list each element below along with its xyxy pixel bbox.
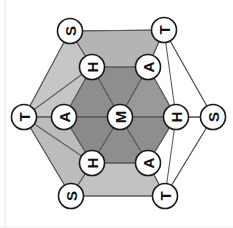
node-label-inner-top-left: H [84,62,101,73]
node-inner-right[interactable]: H [164,105,189,130]
node-outer-top-right[interactable]: T [152,18,177,43]
node-label-outer-top-right: T [156,25,173,34]
node-inner-bottom-left[interactable]: H [80,151,105,176]
node-inner-top-right[interactable]: A [136,55,161,80]
node-outer-top-left[interactable]: S [58,19,83,44]
node-label-outer-right: S [205,112,222,122]
hexagonal-graph-diagram: STTSSTHAAHHAM [0,0,233,228]
node-label-inner-right: H [168,112,185,123]
node-inner-left[interactable]: A [52,105,77,130]
node-center[interactable]: M [108,105,133,130]
node-label-inner-bottom-left: H [84,158,101,169]
node-label-inner-top-right: A [140,61,157,72]
node-inner-top-left[interactable]: H [80,55,105,80]
node-outer-right[interactable]: S [201,105,226,130]
node-inner-bottom-right[interactable]: A [136,151,161,176]
node-label-outer-bottom-right: T [157,191,174,200]
node-outer-bottom-right[interactable]: T [153,184,178,209]
node-label-inner-left: A [56,111,73,122]
node-label-outer-bottom-left: S [63,191,80,201]
node-outer-bottom-left[interactable]: S [59,184,84,209]
node-outer-left[interactable]: T [12,105,37,130]
node-label-outer-top-left: S [62,26,79,36]
node-label-outer-left: T [16,112,33,121]
node-label-inner-bottom-right: A [140,157,157,168]
node-label-center: M [112,111,129,124]
